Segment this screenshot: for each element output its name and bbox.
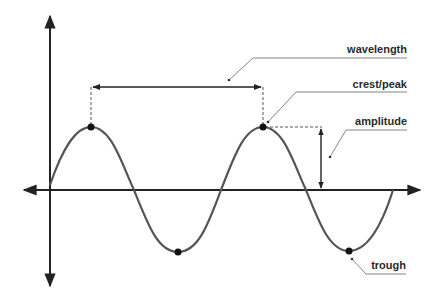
amplitude-marker [265, 127, 322, 188]
wavelength-label: wavelength [320, 43, 407, 55]
leader-lines [229, 58, 407, 274]
trough-label: trough [320, 259, 406, 271]
crest-point-1 [88, 124, 95, 131]
crest-point-2 [260, 124, 267, 131]
trough-point-1 [175, 249, 182, 256]
crest-label: crest/peak [320, 78, 407, 90]
trough-point-2 [346, 248, 353, 255]
wavelength-marker [91, 87, 263, 127]
amplitude-label: amplitude [320, 115, 407, 127]
